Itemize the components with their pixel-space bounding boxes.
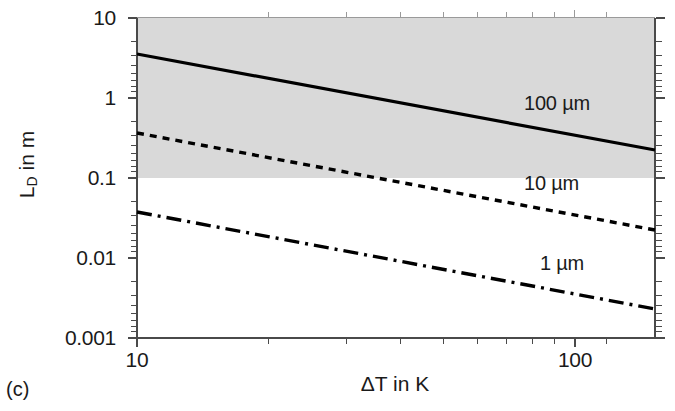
ytick-right-minor bbox=[656, 215, 662, 216]
series-label-100um: 100 µm bbox=[524, 92, 590, 115]
ytick-right-minor bbox=[656, 246, 662, 247]
ytick-right-minor bbox=[656, 41, 662, 42]
xtick-major-10 bbox=[136, 338, 138, 347]
ytick-right-minor bbox=[656, 225, 662, 226]
series-label-1um: 1 µm bbox=[540, 252, 584, 275]
ytick-right-minor bbox=[656, 240, 662, 241]
ytick-minor bbox=[131, 65, 137, 66]
xtick-minor bbox=[346, 338, 347, 344]
ytick-right-minor bbox=[656, 305, 662, 306]
ytick-minor bbox=[131, 41, 137, 42]
ytick-label-0.1: 0.1 bbox=[26, 166, 116, 190]
y-axis-title-units: in m bbox=[15, 131, 38, 177]
ytick-minor bbox=[131, 295, 137, 296]
xtick-minor bbox=[443, 338, 444, 344]
ytick-right-minor bbox=[656, 55, 662, 56]
ytick-minor bbox=[131, 160, 137, 161]
xtick-top-minor bbox=[477, 12, 478, 18]
xtick-top-minor bbox=[532, 12, 533, 18]
ytick-right-minor bbox=[656, 313, 662, 314]
ytick-right-minor bbox=[656, 295, 662, 296]
ytick-minor bbox=[131, 73, 137, 74]
y-axis-title-symbol: L bbox=[15, 186, 38, 198]
xtick-minor bbox=[400, 338, 401, 344]
ytick-right-major bbox=[656, 257, 665, 259]
ytick-label-10: 10 bbox=[26, 6, 116, 30]
xtick-label-10: 10 bbox=[92, 348, 182, 372]
ytick-major-0.1 bbox=[128, 177, 137, 179]
xtick-minor bbox=[532, 338, 533, 344]
ytick-major-1 bbox=[128, 97, 137, 99]
xtick-minor bbox=[477, 338, 478, 344]
ytick-minor bbox=[131, 281, 137, 282]
ytick-label-1: 1 bbox=[26, 86, 116, 110]
xtick-minor bbox=[506, 338, 507, 344]
xtick-top-minor bbox=[400, 12, 401, 18]
ytick-right-major bbox=[656, 97, 665, 99]
xtick-major-100 bbox=[574, 338, 576, 347]
ytick-minor bbox=[131, 313, 137, 314]
ytick-right-minor bbox=[656, 326, 662, 327]
ytick-right-minor bbox=[656, 86, 662, 87]
ytick-minor bbox=[131, 225, 137, 226]
ytick-right-minor bbox=[656, 145, 662, 146]
ytick-right-minor bbox=[656, 135, 662, 136]
ytick-right-minor bbox=[656, 251, 662, 252]
ytick-right-minor bbox=[656, 121, 662, 122]
x-axis-title: ΔT in K bbox=[245, 372, 545, 396]
ytick-minor bbox=[131, 121, 137, 122]
ytick-right-minor bbox=[656, 73, 662, 74]
ytick-label-0.001: 0.001 bbox=[26, 326, 116, 350]
ytick-minor bbox=[131, 251, 137, 252]
ytick-label-0.01: 0.01 bbox=[26, 246, 116, 270]
ytick-minor bbox=[131, 91, 137, 92]
ytick-right-major bbox=[656, 337, 665, 339]
ytick-right-minor bbox=[656, 160, 662, 161]
xtick-top-minor bbox=[606, 12, 607, 18]
ytick-minor bbox=[131, 166, 137, 167]
ytick-minor bbox=[131, 326, 137, 327]
xtick-minor bbox=[268, 338, 269, 344]
ytick-minor bbox=[131, 246, 137, 247]
ytick-right-minor bbox=[656, 166, 662, 167]
ytick-minor bbox=[131, 80, 137, 81]
ytick-minor bbox=[131, 145, 137, 146]
y-axis-title: LD in m bbox=[15, 100, 40, 230]
ytick-minor bbox=[131, 331, 137, 332]
ytick-minor bbox=[131, 320, 137, 321]
xtick-minor bbox=[554, 338, 555, 344]
ytick-minor bbox=[131, 135, 137, 136]
ytick-minor bbox=[131, 201, 137, 202]
ytick-right-minor bbox=[656, 65, 662, 66]
ytick-right-major bbox=[656, 177, 665, 179]
ytick-right-minor bbox=[656, 201, 662, 202]
xtick-top-minor bbox=[346, 12, 347, 18]
ytick-minor bbox=[131, 55, 137, 56]
y-axis-title-subscript: D bbox=[24, 176, 40, 186]
ytick-minor bbox=[131, 153, 137, 154]
ytick-right-minor bbox=[656, 233, 662, 234]
ytick-minor bbox=[131, 233, 137, 234]
xtick-minor bbox=[606, 338, 607, 344]
ytick-minor bbox=[131, 240, 137, 241]
series-line-100um bbox=[137, 54, 655, 252]
ytick-minor bbox=[131, 305, 137, 306]
ytick-major-10 bbox=[128, 17, 137, 19]
ytick-minor bbox=[131, 215, 137, 216]
xtick-top-minor bbox=[443, 12, 444, 18]
ytick-right-minor bbox=[656, 331, 662, 332]
figure-panel-c: 10 1 0.1 0.01 0.001 10 100 LD in m ΔT in… bbox=[0, 0, 675, 411]
ytick-minor bbox=[131, 86, 137, 87]
ytick-right-minor bbox=[656, 320, 662, 321]
xtick-label-100: 100 bbox=[530, 348, 620, 372]
ytick-right-minor bbox=[656, 153, 662, 154]
series-label-10um: 10 µm bbox=[524, 172, 579, 195]
xtick-top-major bbox=[574, 10, 575, 18]
ytick-right-minor bbox=[656, 91, 662, 92]
panel-label: (c) bbox=[6, 378, 29, 401]
ytick-major-0.01 bbox=[128, 257, 137, 259]
xtick-top-minor bbox=[506, 12, 507, 18]
ytick-minor bbox=[131, 171, 137, 172]
ytick-right-minor bbox=[656, 80, 662, 81]
xtick-top-minor bbox=[268, 12, 269, 18]
